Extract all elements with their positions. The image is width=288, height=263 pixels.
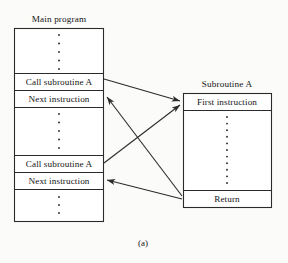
subroutine-call-figure: Main program Call subroutine A Next inst… [0,0,288,263]
main-row-call-subroutine-2: Call subroutine A [26,160,93,169]
main-program-outline [15,29,104,222]
arrow-return-to-next-instruction-2 [107,180,182,199]
diagram-canvas [0,0,288,263]
main-row-next-instruction-2: Next instruction [28,177,89,186]
subroutine-row-first-instruction: First instruction [197,98,257,107]
main-program-title: Main program [32,15,87,24]
arrow-call-1-to-first-instruction [104,79,180,101]
subroutine-row-return: Return [214,195,240,204]
main-row-call-subroutine-1: Call subroutine A [26,78,93,87]
arrow-call-2-to-first-instruction [104,105,180,163]
main-program-box [15,29,104,222]
subroutine-title: Subroutine A [202,80,253,89]
figure-caption: (a) [138,239,148,248]
main-row-next-instruction-1: Next instruction [28,95,89,104]
